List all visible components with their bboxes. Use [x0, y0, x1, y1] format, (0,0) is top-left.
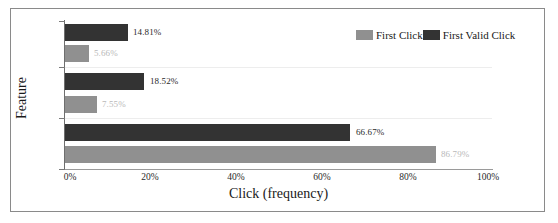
legend-label-first-click: First Click [376, 29, 423, 41]
bar-first-click-2[interactable] [65, 96, 97, 113]
chart-legend: First Click First Valid Click [356, 29, 515, 41]
bar-first-click-3[interactable] [65, 146, 436, 163]
y-axis-title: Feature [14, 58, 30, 138]
legend-swatch-icon-first-valid-click [423, 30, 440, 40]
bar-value-label-first-valid-click-3: 66.67% [356, 124, 384, 141]
chart-figure: 14.81% 5.66% 18.52% 7.55% 66.67% 86.79% … [0, 0, 558, 223]
x-tick-label-60: 60% [313, 172, 330, 182]
x-tick-label-20: 20% [141, 172, 158, 182]
x-axis-title: Click (frequency) [64, 186, 493, 202]
gridline-1 [65, 67, 492, 68]
x-axis-line [64, 169, 493, 170]
bar-value-label-first-click-2: 7.55% [102, 96, 126, 113]
bar-first-valid-click-3[interactable] [65, 124, 350, 141]
legend-entry-first-valid-click[interactable]: First Valid Click [423, 29, 516, 41]
bar-first-valid-click-1[interactable] [65, 24, 128, 41]
bar-first-valid-click-2[interactable] [65, 73, 144, 90]
x-tick-label-0: 0% [64, 172, 77, 182]
legend-label-first-valid-click: First Valid Click [443, 29, 516, 41]
bar-value-label-first-valid-click-1: 14.81% [133, 24, 161, 41]
bar-value-label-first-click-3: 86.79% [441, 146, 469, 163]
y-axis-tick [59, 67, 65, 68]
bar-value-label-first-click-1: 5.66% [94, 45, 118, 62]
x-tick-label-100: 100% [477, 172, 499, 182]
gridline-2 [65, 118, 492, 119]
x-tick-label-40: 40% [227, 172, 244, 182]
x-tick-label-80: 80% [399, 172, 416, 182]
bar-value-label-first-valid-click-2: 18.52% [150, 73, 178, 90]
legend-swatch-icon-first-click [356, 30, 373, 40]
y-axis-tick [59, 118, 65, 119]
bar-first-click-1[interactable] [65, 45, 89, 62]
y-axis-tick [59, 21, 65, 22]
y-axis-tick [59, 169, 65, 170]
legend-entry-first-click[interactable]: First Click [356, 29, 423, 41]
